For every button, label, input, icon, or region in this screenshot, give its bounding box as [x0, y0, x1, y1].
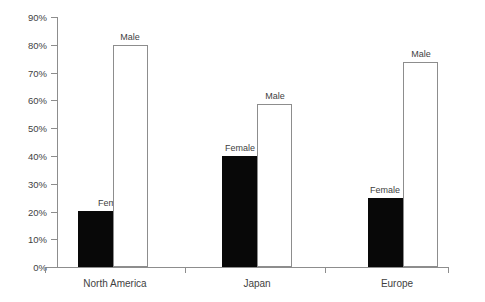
bar-europe-female[interactable] [368, 198, 403, 267]
y-axis-tick [51, 100, 57, 101]
bar-north-america-female[interactable] [78, 211, 113, 267]
y-axis-tick [51, 156, 57, 157]
x-axis-category-japan: Japan [182, 279, 332, 289]
x-axis-tick [448, 267, 449, 273]
bar-chart: 90% 80% 70% 60% 50% 40% 30% 20% 10% 0% F… [0, 0, 485, 302]
y-axis-label: 60% [3, 96, 47, 106]
y-axis-tick [51, 73, 57, 74]
bar-japan-male[interactable] [257, 104, 292, 267]
x-axis-category-north-america: North America [40, 279, 190, 289]
plot-area: 90% 80% 70% 60% 50% 40% 30% 20% 10% 0% F… [0, 0, 485, 302]
y-axis-tick [51, 45, 57, 46]
bar-europe-male[interactable] [403, 62, 438, 267]
y-axis-label: 20% [3, 208, 47, 218]
bar-label-japan-male: Male [247, 92, 303, 101]
y-axis-tick [51, 128, 57, 129]
bar-label-europe-male: Male [393, 50, 449, 59]
y-axis-tick [51, 17, 57, 18]
y-axis-label: 70% [3, 69, 47, 79]
x-axis-tick [45, 267, 46, 273]
y-axis-label: 30% [3, 180, 47, 190]
y-axis-label: 90% [3, 13, 47, 23]
y-axis-label: 50% [3, 124, 47, 134]
x-axis-category-europe: Europe [322, 279, 472, 289]
y-axis-tick [51, 184, 57, 185]
y-axis-line [57, 17, 58, 268]
y-axis-label: 80% [3, 41, 47, 51]
bar-label-north-america-male: Male [102, 33, 158, 42]
y-axis-tick [51, 267, 57, 268]
bar-japan-female[interactable] [222, 156, 257, 267]
y-axis-label: 0% [3, 263, 47, 273]
y-axis-tick [51, 239, 57, 240]
y-axis-tick [51, 212, 57, 213]
bar-north-america-male[interactable] [113, 45, 148, 267]
x-axis-tick [185, 267, 186, 273]
y-axis-label: 40% [3, 152, 47, 162]
x-axis-tick [325, 267, 326, 273]
x-axis-line [45, 267, 449, 268]
y-axis-label: 10% [3, 235, 47, 245]
